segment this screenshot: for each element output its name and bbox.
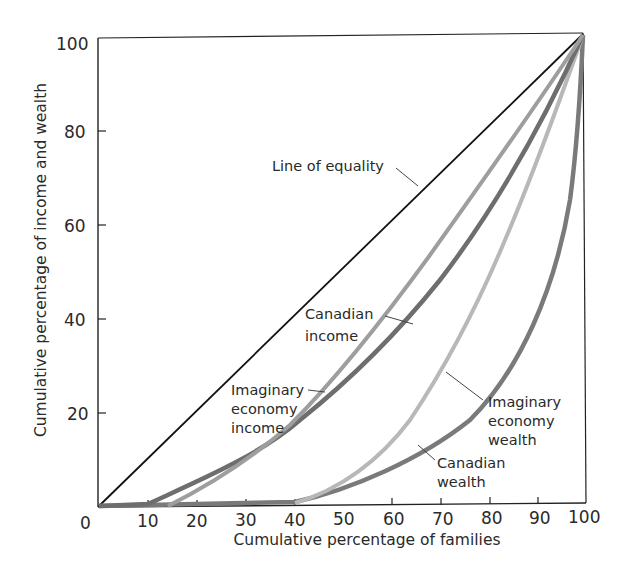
lorenz-chart: 100 80 60 40 20 0 10 20 30 40 50 60 70 8… [0,0,632,579]
svg-text:Line of equality: Line of equality [272,158,384,174]
svg-text:80: 80 [481,508,503,528]
svg-text:20: 20 [67,404,89,424]
svg-text:10: 10 [137,511,159,531]
svg-text:60: 60 [383,509,405,529]
svg-text:40: 40 [64,310,86,330]
x-axis-title: Cumulative percentage of families [233,531,500,549]
svg-text:80: 80 [64,122,86,142]
svg-text:income: income [231,420,284,436]
svg-text:Canadian: Canadian [305,306,373,322]
svg-text:economy: economy [488,413,555,429]
annotation-canadian-income: Canadian income [305,306,413,344]
imaginary-wealth-curve [295,35,583,503]
svg-text:50: 50 [333,509,355,529]
svg-text:Imaginary: Imaginary [231,382,305,398]
svg-text:economy: economy [231,401,298,417]
annotation-imaginary-wealth: Imaginary economy wealth [446,372,562,448]
x-tick-labels: 0 10 20 30 40 50 60 70 80 90 100 [80,507,600,533]
svg-text:30: 30 [235,510,257,530]
annotation-canadian-wealth: Canadian wealth [418,445,505,490]
y-axis-ticks [98,131,106,413]
svg-text:0: 0 [80,513,91,533]
svg-text:wealth: wealth [488,432,537,448]
svg-text:Canadian: Canadian [437,455,505,471]
svg-text:40: 40 [284,510,306,530]
svg-text:70: 70 [432,509,454,529]
svg-text:100: 100 [56,34,88,54]
svg-text:20: 20 [186,511,208,531]
y-axis-title: Cumulative percentage of income and weal… [32,83,50,437]
svg-text:60: 60 [64,216,86,236]
svg-text:Imaginary: Imaginary [488,394,562,410]
svg-text:income: income [305,328,358,344]
y-tick-labels: 100 80 60 40 20 [56,34,89,424]
svg-text:100: 100 [568,507,600,527]
annotation-line-of-equality: Line of equality [272,158,418,186]
svg-text:wealth: wealth [437,474,486,490]
svg-text:90: 90 [529,508,551,528]
